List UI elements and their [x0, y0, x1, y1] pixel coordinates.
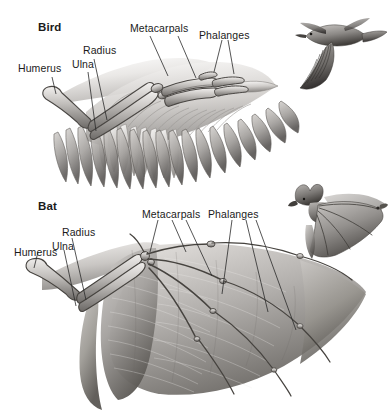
bat-panel: Bat Humerus Radius Ulna Metacarpals Phal… [0, 180, 391, 413]
bat-label-ulna: Ulna [52, 240, 74, 252]
bird-heading: Bird [38, 21, 61, 33]
bird-label-metacarpals: Metacarpals [130, 22, 188, 34]
bat-label-humerus: Humerus [14, 246, 57, 258]
wing-homology-figure: Bird Humerus Radius Ulna Metacarpals Pha… [0, 0, 391, 413]
bat-label-phalanges: Phalanges [208, 208, 259, 220]
flying-bird-inset [292, 14, 388, 92]
bird-panel: Bird Humerus Radius Ulna Metacarpals Pha… [0, 0, 391, 195]
bird-label-humerus: Humerus [18, 62, 61, 74]
bat-label-radius: Radius [62, 226, 95, 238]
flying-bat-inset [288, 175, 388, 261]
bird-label-phalanges: Phalanges [199, 29, 250, 41]
bat-heading: Bat [38, 200, 57, 212]
bat-label-metacarpals: Metacarpals [142, 208, 200, 220]
bird-label-radius: Radius [83, 44, 116, 56]
bird-label-ulna: Ulna [72, 58, 94, 70]
